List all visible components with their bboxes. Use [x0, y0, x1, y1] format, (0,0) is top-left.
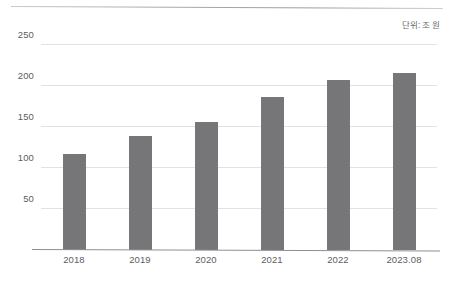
bar-slot — [239, 33, 305, 250]
bar-slot — [371, 33, 437, 250]
bar-slot — [173, 33, 239, 250]
bars-group — [41, 33, 437, 250]
x-axis-tick-label: 2023.08 — [371, 254, 437, 265]
x-axis-tick-label: 2020 — [173, 254, 239, 265]
bar[interactable] — [129, 136, 152, 250]
y-axis-tick-label: 100 — [18, 152, 34, 163]
bar-slot — [107, 33, 173, 250]
y-axis-tick-label: 250 — [18, 29, 34, 40]
bar[interactable] — [393, 73, 416, 250]
bar-slot — [305, 33, 371, 250]
top-divider-rule — [11, 6, 443, 9]
y-axis-tick-label: 150 — [18, 111, 34, 122]
x-axis-tick-label: 2022 — [305, 254, 371, 265]
x-axis-tick-labels: 201820192020202120222023.08 — [41, 254, 437, 265]
x-axis-tick-label: 2019 — [107, 254, 173, 265]
bar[interactable] — [63, 154, 86, 250]
bar[interactable] — [195, 122, 218, 250]
x-axis-line — [32, 249, 440, 252]
y-axis-tick-label: 50 — [23, 193, 34, 204]
bar-chart-figure: 단위: 조 원 50100150200250 20182019202020212… — [0, 0, 450, 287]
unit-annotation: 단위: 조 원 — [402, 18, 440, 30]
plot-area: 50100150200250 — [41, 33, 437, 250]
bar-slot — [41, 33, 107, 250]
bar[interactable] — [327, 80, 350, 250]
bar[interactable] — [261, 97, 284, 250]
y-axis-tick-label: 200 — [18, 70, 34, 81]
x-axis-tick-label: 2021 — [239, 254, 305, 265]
x-axis-tick-label: 2018 — [41, 254, 107, 265]
